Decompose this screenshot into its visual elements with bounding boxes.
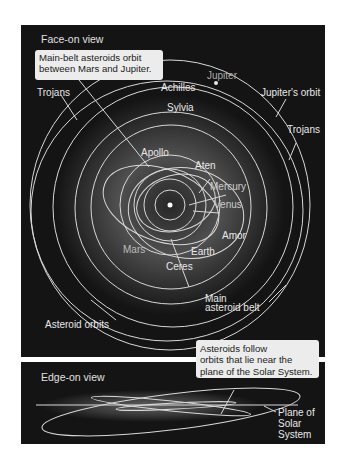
label-venus: Venus — [214, 200, 242, 210]
label-main-line2: asteroid belt — [205, 303, 259, 312]
label-plane-of-solar-system: Plane of Solar System — [278, 407, 315, 440]
label-mars: Mars — [123, 245, 145, 255]
label-earth: Earth — [191, 247, 215, 257]
jupiter-dot — [214, 81, 218, 85]
label-main-asteroid-belt: Main asteroid belt — [205, 294, 259, 312]
callout-line-1: Main-belt asteroids orbit — [39, 52, 159, 63]
edge-on-view-title: Edge-on view — [41, 371, 105, 383]
edge-on-callout: Asteroids follow orbits that lie near th… — [196, 340, 319, 378]
main-belt-callout: Main-belt asteroids orbit between Mars a… — [35, 50, 163, 80]
label-amor: Amor — [222, 231, 246, 241]
face-on-view-panel: Face-on view Main-belt asteroids orbit b… — [21, 25, 325, 357]
edge-callout-line-1: Asteroids follow — [200, 343, 315, 354]
label-achilles: Achilles — [161, 83, 195, 93]
label-trojans-left: Trojans — [37, 88, 70, 98]
label-plane-line2: Solar — [278, 418, 315, 429]
edge-callout-line-2: orbits that lie near the — [200, 354, 315, 365]
label-jupiters-orbit: Jupiter's orbit — [261, 88, 320, 98]
edge-callout-line-3: plane of the Solar System. — [200, 366, 315, 377]
label-jupiter: Jupiter — [207, 71, 237, 81]
label-apollo: Apollo — [141, 148, 169, 158]
label-sylvia: Sylvia — [167, 103, 194, 113]
label-plane-line1: Plane of — [278, 407, 315, 418]
label-trojans-right: Trojans — [287, 125, 320, 135]
callout-line-2: between Mars and Jupiter. — [39, 63, 159, 74]
label-mercury: Mercury — [210, 182, 246, 192]
face-on-view-title: Face-on view — [41, 33, 103, 45]
sun-dot — [168, 203, 173, 208]
label-asteroid-orbits: Asteroid orbits — [45, 320, 109, 330]
label-plane-line3: System — [278, 429, 315, 440]
label-aten: Aten — [195, 161, 216, 171]
label-ceres: Ceres — [166, 262, 193, 272]
